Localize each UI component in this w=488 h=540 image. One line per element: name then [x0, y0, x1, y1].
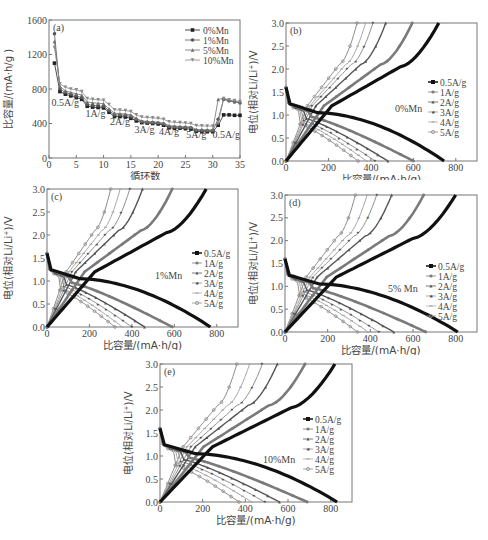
curve-marker: [260, 409, 263, 412]
x-tick-label: 600: [167, 328, 182, 339]
curve-marker: [217, 465, 220, 468]
curve-marker: [367, 248, 370, 251]
rate-annotation: 3A/g: [135, 124, 155, 135]
legend-label: 0.5A/g: [315, 415, 341, 425]
curve-marker: ★: [329, 130, 333, 135]
charge-curve: [47, 189, 206, 327]
x-tick-label: 800: [323, 503, 338, 514]
x-tick-label: 400: [363, 162, 378, 173]
curve-marker: ★: [221, 477, 225, 482]
curve-marker: [310, 123, 313, 126]
curve-marker: ★: [104, 307, 108, 312]
rate-annotation: 4A/g: [159, 126, 179, 137]
legend-label: 3A/g: [440, 108, 459, 118]
curve-marker: [262, 482, 265, 485]
curve-marker: [381, 239, 384, 242]
curve-marker: ★: [250, 385, 254, 390]
curve-marker: ★: [95, 242, 99, 247]
y-tick-label: 0: [42, 153, 47, 164]
series-marker: [135, 113, 139, 117]
curve-marker: ★: [320, 126, 324, 131]
y-tick-label: 2.5: [33, 207, 46, 218]
curve-marker: [386, 147, 389, 150]
x-tick-label: 0: [284, 162, 289, 173]
rate-annotation: 5A/g: [186, 129, 206, 140]
legend-marker: [306, 417, 310, 421]
legend-label: 5A/g: [440, 128, 459, 138]
legend-label: 4A/g: [204, 289, 223, 299]
chart-c: 02004006008000.00.51.01.52.02.53.0(c)比容量…: [0, 175, 250, 350]
series-marker: [222, 113, 226, 117]
curve-marker: ★: [367, 323, 371, 328]
curve-marker: ★: [347, 238, 351, 243]
y-tick-label: 2.0: [272, 64, 285, 75]
x-axis-label: 比容量/(mA·h/g): [342, 173, 421, 180]
curve-marker: [121, 301, 124, 304]
y-tick-label: 3.0: [272, 18, 285, 29]
curve-marker: ★: [200, 467, 204, 472]
curve-marker: [424, 331, 427, 334]
curve-marker: [158, 211, 161, 214]
curve-marker: [348, 129, 351, 132]
curve-marker: ★: [230, 407, 234, 412]
x-tick-label: 200: [82, 328, 97, 339]
x-tick-label: 0: [47, 159, 52, 170]
curve-marker: [304, 363, 307, 366]
curve-marker: [121, 243, 124, 246]
legend: 0%Mn1%Mn5%Mn10%Mn: [185, 26, 234, 66]
series-marker: [227, 113, 231, 117]
curve-marker: [203, 460, 206, 463]
y-tick-label: 1600: [27, 15, 47, 26]
curve-marker: [217, 436, 220, 439]
curve-marker: ★: [330, 302, 334, 307]
y-tick-label: 1.5: [272, 87, 285, 98]
x-axis-label: 比容量/(mA·h/g): [103, 339, 182, 350]
curve-marker: ★: [78, 260, 82, 265]
x-tick-label: 20: [153, 159, 163, 170]
legend-label: 5%Mn: [203, 46, 229, 56]
curve-marker: ★: [346, 141, 350, 146]
curve-marker: [398, 45, 401, 48]
curve-marker: [246, 418, 249, 421]
chart-e-plot: 02004006008000.00.51.01.52.02.53.0(e)比容量…: [120, 350, 380, 540]
y-tick-label: 2.5: [146, 382, 159, 393]
curve-marker: [71, 289, 74, 292]
panel-label: (b): [290, 25, 302, 37]
legend-label: 3A/g: [438, 292, 457, 302]
curve-marker: [146, 226, 149, 229]
legend-label: 1A/g: [204, 259, 223, 269]
curve-marker: [382, 312, 385, 315]
curve-marker: [231, 427, 234, 430]
curve-marker: ★: [362, 44, 366, 49]
curve-marker: [374, 141, 377, 144]
legend-marker: [429, 264, 433, 268]
y-tick-label: 2.0: [146, 405, 159, 416]
curve-marker: [83, 270, 86, 273]
x-tick-label: 0: [45, 328, 50, 339]
legend-marker: [431, 80, 435, 84]
legend-label: 0.5A/g: [204, 249, 230, 259]
y-axis-label: 比容量/(mA·h/g ): [2, 49, 14, 129]
curve-marker: ★: [199, 435, 203, 440]
curve-marker: [411, 22, 414, 25]
curve-marker: ★: [349, 312, 353, 317]
curve-marker: [108, 295, 111, 298]
curve-marker: [335, 95, 338, 98]
x-tick-label: 600: [406, 162, 421, 173]
curve-marker: [326, 290, 329, 293]
curve-marker: [412, 160, 415, 163]
curve-marker: ★: [219, 417, 223, 422]
rate-annotation: 1A/g: [85, 108, 105, 119]
legend-label: 4A/g: [440, 118, 459, 128]
curve-marker: ★: [373, 158, 377, 163]
curve-marker: [353, 258, 356, 261]
x-tick-label: 200: [320, 333, 335, 344]
curve-marker: [325, 276, 328, 279]
curve-marker: ★: [375, 192, 379, 197]
curve-marker: [373, 68, 376, 71]
legend-label: 0%Mn: [203, 26, 229, 36]
series-marker: [238, 114, 242, 118]
curve-marker: [96, 290, 99, 293]
legend-label: 1A/g: [440, 88, 459, 98]
legend-label: 0.5A/g: [440, 78, 466, 88]
